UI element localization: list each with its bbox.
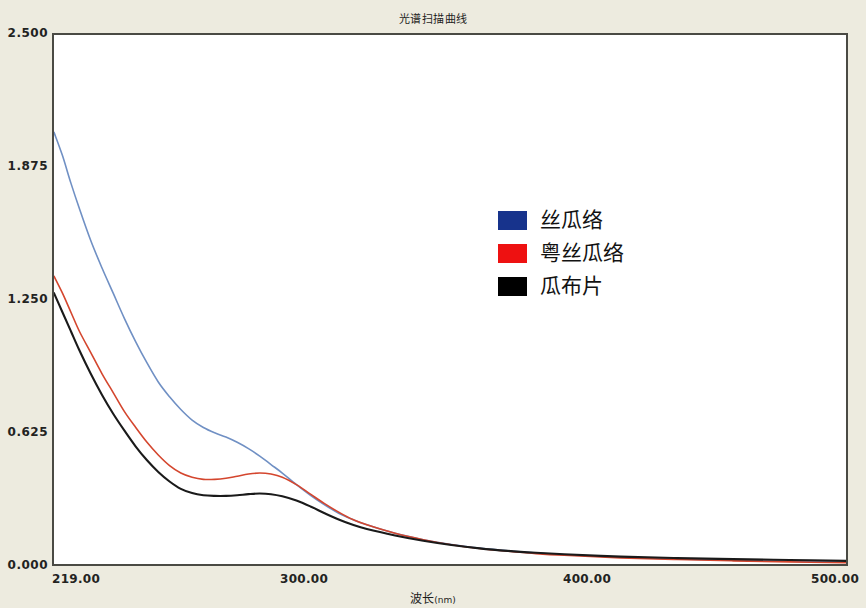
x-tick-label: 500.00 [811,572,859,586]
x-axis-unit: (nm) [434,595,456,605]
legend-swatch-blue [498,211,527,230]
series-line [54,293,846,561]
legend-item: 丝瓜络 [498,204,624,237]
legend-label: 瓜布片 [540,276,603,297]
legend-label: 丝瓜络 [540,210,603,231]
plot-area [52,33,848,566]
x-tick-label: 219.00 [52,572,100,586]
x-tick-label: 400.00 [563,572,611,586]
series-line [54,276,846,563]
x-axis-title-text: 波长 [410,592,434,606]
y-tick-label: 0.000 [2,558,48,572]
legend-label: 粤丝瓜络 [540,243,624,264]
y-tick-label: 2.500 [2,26,48,40]
legend-swatch-black [498,277,527,296]
legend-item: 粤丝瓜络 [498,237,624,270]
y-tick-label: 0.625 [2,425,48,439]
y-tick-label: 1.875 [2,159,48,173]
legend-swatch-red [498,244,527,263]
x-tick-label: 300.00 [280,572,328,586]
chart-title: 光谱扫描曲线 [0,10,866,26]
chart-legend: 丝瓜络 粤丝瓜络 瓜布片 [498,204,624,303]
x-axis-title: 波长(nm) [0,589,866,606]
series-line [54,132,846,562]
curve-canvas [54,35,846,564]
legend-item: 瓜布片 [498,270,624,303]
y-axis: 2.500 1.875 1.250 0.625 0.000 [0,0,48,608]
y-tick-label: 1.250 [2,292,48,306]
spectral-scan-chart: 光谱扫描曲线 2.500 1.875 1.250 0.625 0.000 219… [0,0,866,608]
